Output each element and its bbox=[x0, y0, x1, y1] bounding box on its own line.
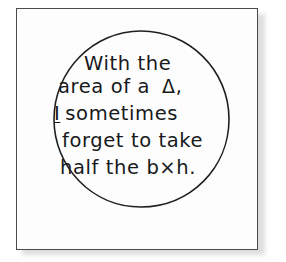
note-line-1: With the bbox=[84, 54, 171, 74]
note-line-4: forget to take bbox=[62, 131, 203, 151]
note-text-block: With the area of aΔ, Isometimes forget t… bbox=[52, 52, 236, 192]
note-line-3: Isometimes bbox=[54, 104, 178, 124]
pronoun-i-emphasis: I bbox=[54, 102, 60, 125]
note-line-2: area of aΔ, bbox=[58, 77, 182, 97]
note-line-5: half the b×h. bbox=[60, 158, 196, 178]
note-line-3-words: sometimes bbox=[65, 102, 178, 125]
note-line-2-words: area of a bbox=[58, 75, 150, 98]
note-scene: With the area of aΔ, Isometimes forget t… bbox=[0, 0, 286, 262]
triangle-symbol: Δ, bbox=[162, 75, 182, 97]
